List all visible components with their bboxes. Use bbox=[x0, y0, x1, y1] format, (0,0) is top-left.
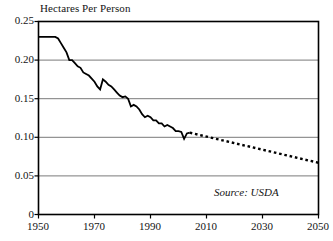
chart-container: Hectares Per Person Source: USDA 0 0.05 … bbox=[0, 0, 333, 241]
x-tick-label-1: 1970 bbox=[72, 221, 116, 232]
series-line-0 bbox=[39, 37, 190, 139]
x-tick-label-3: 2010 bbox=[184, 221, 228, 232]
y-tick-label-2: 0.10 bbox=[0, 131, 34, 142]
source-annotation: Source: USDA bbox=[214, 186, 279, 198]
x-tick-label-0: 1950 bbox=[16, 221, 60, 232]
y-tick-label-1: 0.05 bbox=[0, 170, 34, 181]
x-tick-label-4: 2030 bbox=[240, 221, 284, 232]
plot-area bbox=[0, 0, 333, 241]
x-tick-label-5: 2050 bbox=[296, 221, 333, 232]
y-tick-label-4: 0.20 bbox=[0, 54, 34, 65]
y-tick-label-3: 0.15 bbox=[0, 93, 34, 104]
y-tick-label-0: 0 bbox=[0, 209, 34, 220]
x-tick-label-2: 1990 bbox=[128, 221, 172, 232]
y-tick-label-5: 0.25 bbox=[0, 15, 34, 26]
